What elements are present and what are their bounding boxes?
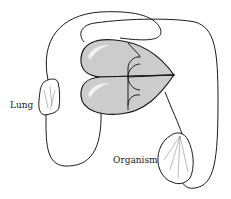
heart-lower-lobe	[81, 75, 174, 114]
lung-return-vessel	[46, 112, 101, 166]
organism-label: Organism	[113, 155, 158, 165]
aorta-vessel	[165, 92, 182, 134]
circulation-diagram	[0, 0, 231, 199]
heart-upper-lobe	[81, 40, 174, 77]
lung-icon	[39, 79, 60, 115]
lung-label: Lung	[10, 100, 33, 110]
organism-icon	[158, 133, 193, 184]
